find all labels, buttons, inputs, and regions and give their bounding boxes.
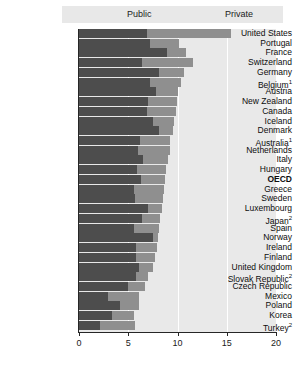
bar-segment-public [79,48,167,57]
legend-entry-public: Public [102,10,152,19]
bar-segment-private [134,224,159,233]
bar-segment-private [135,194,163,203]
footnote-marker: 1 [289,79,292,85]
bar-segment-private [136,243,157,252]
bar-segment-private [136,272,148,281]
bar-segment-public [79,175,141,184]
bar-segment-public [79,243,136,252]
category-label: Hungary [217,165,295,174]
bar-segment-private [138,146,170,155]
bar-segment-private [108,292,140,301]
category-label: Denmark [217,126,295,135]
bar-segment-public [79,39,150,48]
bar-segment-private [142,58,193,67]
bar-segment-public [79,165,137,174]
category-label: Netherlands [217,146,295,155]
category-label: Czech Republic [217,282,295,291]
bar-segment-private [148,97,177,106]
tick-mark-5 [128,332,129,336]
bar-segment-private [147,107,176,116]
bar-segment-public [79,311,112,320]
category-label: United States [217,29,295,38]
category-label: Ireland [217,243,295,252]
category-label: Spain [217,224,295,233]
category-label: Italy [217,155,295,164]
tick-mark-0 [79,332,80,336]
category-label: Norway [217,233,295,242]
tick-label-10: 10 [166,338,190,348]
footnote-marker: 2 [289,322,292,328]
bar-segment-public [79,29,147,38]
bar-segment-public [79,78,150,87]
bar-segment-public [79,233,153,242]
category-label: Mexico [217,292,295,301]
bar-segment-private [137,165,166,174]
bar-segment-public [79,146,138,155]
bar-segment-public [79,272,136,281]
tick-mark-10 [178,332,179,336]
y-axis-line [78,29,79,333]
category-label: OECD [217,175,295,184]
bar-segment-public [79,107,147,116]
bar-segment-public [79,301,120,310]
bar-segment-public [79,68,159,77]
bar-segment-public [79,321,100,330]
health-expenditure-chart: Public Private 05101520 United StatesPor… [0,0,295,365]
footnote-marker: 2 [289,273,292,279]
bar-segment-public [79,117,153,126]
category-label: Finland [217,253,295,262]
bar-segment-public [79,282,128,291]
footnote-marker: 2 [289,215,292,221]
bar-segment-public [79,87,156,96]
bar-segment-private [148,204,162,213]
bar-segment-private [153,117,174,126]
legend-swatch-public [102,11,121,19]
legend-label-public: Public [127,10,152,19]
bar-segment-public [79,97,148,106]
legend-entry-private: Private [200,10,253,19]
category-label: Korea [217,311,295,320]
bar-segment-public [79,194,135,203]
bar-segment-private [112,311,134,320]
bar-segment-public [79,126,159,135]
bar-segment-public [79,155,143,164]
legend-label-private: Private [225,10,253,19]
bar-segment-public [79,263,139,272]
bar-segment-private [150,39,180,48]
category-label: Poland [217,301,295,310]
bar-segment-private [128,282,145,291]
bar-segment-private [150,78,182,87]
bar-segment-private [120,301,139,310]
bar-segment-public [79,224,134,233]
chart-legend: Public Private [62,6,283,23]
footnote-marker: 1 [289,137,292,143]
bar-segment-private [143,155,168,164]
bar-segment-public [79,185,134,194]
tick-label-20: 20 [264,338,288,348]
bar-segment-public [79,58,142,67]
bar-segment-private [139,263,153,272]
category-label: Greece [217,185,295,194]
category-label: United Kingdom [217,263,295,272]
tick-label-5: 5 [116,338,140,348]
tick-label-0: 0 [67,338,91,348]
category-label: New Zealand [217,97,295,106]
tick-label-15: 15 [215,338,239,348]
category-label: Switzerland [217,58,295,67]
bar-segment-public [79,292,108,301]
bar-segment-public [79,253,136,262]
bar-segment-public [79,136,140,145]
bar-segment-private [167,48,187,57]
category-label: Turkey2 [217,321,295,333]
bar-segment-private [141,175,165,184]
bar-segment-private [100,321,135,330]
category-label: Luxembourg [217,204,295,213]
category-label: Austria [217,87,295,96]
category-label: France [217,48,295,57]
bar-segment-private [142,214,160,223]
bar-segment-private [153,233,158,242]
bar-segment-private [136,253,155,262]
bar-segment-private [140,136,170,145]
bar-segment-private [159,68,185,77]
bar-segment-public [79,204,148,213]
